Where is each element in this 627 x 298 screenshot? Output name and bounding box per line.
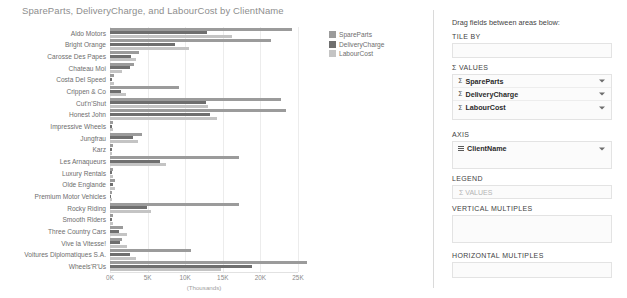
field-well-dropzone[interactable]: ClientName (452, 141, 612, 169)
chart-bar[interactable] (110, 39, 271, 42)
chart-bar[interactable] (110, 47, 189, 50)
chart-bar[interactable] (110, 222, 113, 225)
chart-bar[interactable] (110, 55, 131, 58)
chart-bar[interactable] (110, 233, 127, 236)
chart-bar[interactable] (110, 109, 286, 112)
chart-bar[interactable] (110, 152, 112, 155)
field-well-dropzone[interactable] (452, 43, 612, 58)
chart-bar[interactable] (110, 203, 239, 206)
chart-bar[interactable] (110, 58, 136, 61)
field-well-dropzone[interactable]: Σ VALUES (452, 185, 612, 199)
category-axis-label: Aldo Motors (71, 29, 106, 36)
chart-bar[interactable] (110, 133, 142, 136)
chart-category-row: Karz (110, 144, 298, 156)
chart-bar[interactable] (110, 268, 221, 271)
chart-bar[interactable] (110, 226, 123, 229)
field-chip[interactable]: ΣLabourCost (453, 101, 611, 114)
field-well-dropzone[interactable] (452, 215, 612, 243)
chart-bar[interactable] (110, 86, 179, 89)
chart-bar[interactable] (110, 82, 114, 85)
chart-bar[interactable] (110, 187, 115, 190)
chart-bar[interactable] (110, 113, 210, 116)
chart-bar[interactable] (110, 257, 136, 260)
category-axis-label: Voitures Diplomatiques S.A. (24, 251, 106, 258)
chart-bar[interactable] (110, 93, 126, 96)
chart-bar[interactable] (110, 168, 113, 171)
chart-bar[interactable] (110, 238, 122, 241)
chart-bar[interactable] (110, 214, 113, 217)
chart-bar[interactable] (110, 230, 119, 233)
chart-bar[interactable] (110, 195, 111, 198)
chart-bar[interactable] (110, 253, 130, 256)
chart-bar[interactable] (110, 90, 121, 93)
chart-legend: SparePartsDeliveryChargeLabourCost (329, 31, 384, 60)
chart-bar[interactable] (110, 140, 138, 143)
chart-category-row: Jungfrau (110, 132, 298, 144)
table-grid-icon (458, 146, 464, 152)
field-chip[interactable]: ΣDeliveryCharge (453, 88, 611, 101)
chart-bar[interactable] (110, 156, 239, 159)
chart-bar[interactable] (110, 101, 206, 104)
chart-bar[interactable] (110, 171, 112, 174)
field-well-dropzone[interactable]: ΣSparePartsΣDeliveryChargeΣLabourCost (452, 74, 612, 120)
chart-bar[interactable] (110, 136, 133, 139)
chevron-down-icon[interactable] (599, 93, 605, 96)
chart-bar[interactable] (110, 105, 208, 108)
chart-bar[interactable] (110, 198, 112, 201)
field-chip[interactable]: ΣSpareParts (453, 75, 611, 88)
chart-bar[interactable] (110, 218, 112, 221)
category-axis-label: Jungfrau (80, 134, 106, 141)
chevron-down-icon[interactable] (599, 80, 605, 83)
legend-swatch-icon (329, 50, 336, 57)
chart-bar[interactable] (110, 98, 281, 101)
chart-bar[interactable] (110, 191, 112, 194)
chart-bar[interactable] (110, 163, 166, 166)
chart-category-row: Premium Motor Vehicles (110, 190, 298, 202)
category-axis-label: Olde Englande (62, 181, 106, 188)
chart-bar[interactable] (110, 66, 130, 69)
chart-bar[interactable] (110, 70, 122, 73)
chart-bar[interactable] (110, 43, 175, 46)
chart-bar[interactable] (110, 117, 217, 120)
chart-bar[interactable] (110, 148, 112, 151)
chart-bar[interactable] (110, 160, 160, 163)
field-chip[interactable]: ClientName (453, 142, 611, 155)
chevron-down-icon[interactable] (599, 147, 605, 150)
chart-bar[interactable] (110, 28, 292, 31)
sigma-icon: Σ (458, 77, 462, 85)
chart-bar[interactable] (110, 210, 151, 213)
chart-bar[interactable] (110, 265, 252, 268)
chart-bar[interactable] (110, 51, 139, 54)
x-axis: 0K5K10K15K20K25K (110, 272, 298, 284)
chart-bar[interactable] (110, 245, 127, 248)
chevron-down-icon[interactable] (599, 106, 605, 109)
chart-bar[interactable] (110, 125, 112, 128)
chart-bar[interactable] (110, 183, 113, 186)
category-axis-label: Impressive Wheels (50, 123, 106, 130)
chart-bar[interactable] (110, 35, 232, 38)
field-well-section: HORIZONTAL MULTIPLES (452, 252, 612, 278)
chart-bar[interactable] (110, 179, 115, 182)
chart-bar[interactable] (110, 144, 113, 147)
chart-bar[interactable] (110, 128, 113, 131)
field-well-dropzone[interactable] (452, 262, 612, 278)
category-axis-label: Rocky Riding (67, 204, 106, 211)
chart-bar[interactable] (110, 175, 113, 178)
power-view-chart-screen: SpareParts, DeliveryCharge, and LabourCo… (0, 0, 627, 298)
legend-item[interactable]: SpareParts (329, 31, 384, 38)
chart-bar[interactable] (110, 121, 113, 124)
legend-item[interactable]: LabourCost (329, 50, 384, 57)
chart-bar[interactable] (110, 261, 307, 264)
field-well-section: Σ VALUESΣSparePartsΣDeliveryChargeΣLabou… (452, 64, 612, 120)
field-chip-label: DeliveryCharge (465, 90, 518, 99)
chart-bar[interactable] (110, 31, 207, 34)
chart-bar[interactable] (110, 63, 134, 66)
chart-bar[interactable] (110, 78, 112, 81)
chart-bar[interactable] (110, 249, 191, 252)
legend-item[interactable]: DeliveryCharge (329, 41, 384, 48)
chart-bar[interactable] (110, 74, 114, 77)
chart-category-row: Three Country Cars (110, 225, 298, 237)
chart-bar[interactable] (110, 241, 120, 244)
field-well-section: VERTICAL MULTIPLES (452, 205, 612, 243)
chart-bar[interactable] (110, 206, 147, 209)
